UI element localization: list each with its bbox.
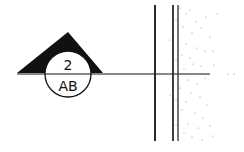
section-drawing: 2 AB <box>0 0 244 152</box>
detail-number: 2 <box>64 57 73 73</box>
section-line-extension <box>227 73 234 74</box>
section-marker[interactable]: 2 AB <box>17 32 103 97</box>
wall-section <box>155 5 178 141</box>
sheet-number: AB <box>58 78 77 94</box>
